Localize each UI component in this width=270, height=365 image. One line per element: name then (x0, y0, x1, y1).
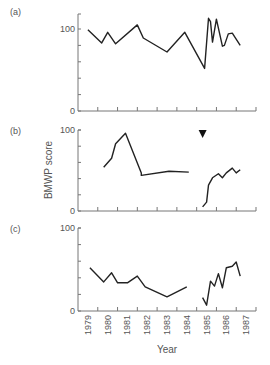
x-tick-label: 1981 (122, 315, 132, 335)
panel-a: (a)0100 (10, 7, 256, 116)
x-tick-label: 1986 (221, 315, 231, 335)
triangle-down-marker-icon (199, 130, 207, 138)
data-line (203, 168, 241, 207)
y-tick-label: 0 (70, 306, 75, 316)
y-tick-label: 100 (60, 24, 75, 34)
y-axis-label: BMWP score (43, 140, 54, 199)
y-tick-label: 0 (70, 206, 75, 216)
bmwp-score-chart: (a)0100(b)0100(c)0100 BMWP score Year 19… (0, 0, 270, 365)
y-tick-label: 0 (70, 106, 75, 116)
data-line (88, 18, 240, 68)
x-tick-label: 1980 (103, 315, 113, 335)
x-tick-label: 1987 (241, 315, 251, 335)
x-tick-label: 1984 (182, 315, 192, 335)
x-tick-label: 1979 (83, 315, 93, 335)
y-tick-label: 100 (60, 223, 75, 233)
panel-label: (c) (10, 224, 21, 234)
data-line (104, 133, 189, 175)
x-tick-labels: 197919801981198219831984198519861987 (83, 315, 251, 335)
panel-label: (a) (10, 7, 21, 17)
x-tick-label: 1982 (142, 315, 152, 335)
data-line (90, 268, 187, 297)
x-tick-label: 1985 (202, 315, 212, 335)
x-axis-label: Year (157, 344, 178, 355)
panel-label: (b) (10, 126, 21, 136)
x-tick-label: 1983 (162, 315, 172, 335)
y-tick-label: 100 (60, 125, 75, 135)
panel-c: (c)0100 (10, 223, 256, 316)
data-line (203, 262, 241, 305)
